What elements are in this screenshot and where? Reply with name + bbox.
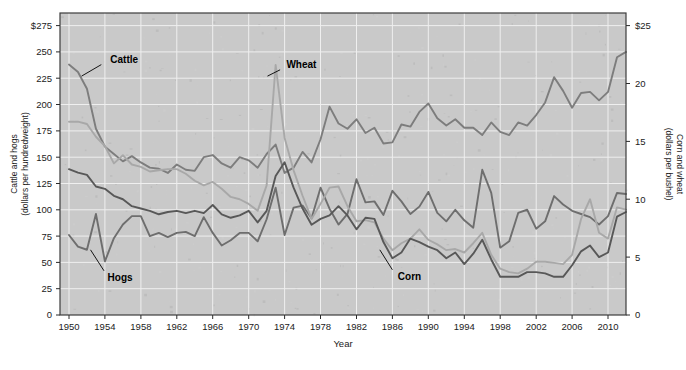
series-label-cattle: Cattle: [110, 54, 138, 65]
series-label-corn: Corn: [398, 271, 421, 282]
svg-text:Cattle and hogs: Cattle and hogs: [9, 134, 19, 194]
right-tick-label: 10: [635, 194, 646, 205]
left-tick-label: 200: [36, 99, 52, 110]
x-axis-title: Year: [333, 338, 352, 349]
left-tick-label: 125: [36, 178, 52, 189]
right-tick-label: 15: [635, 136, 646, 147]
x-tick-label: 1970: [238, 321, 259, 332]
svg-text:Corn and wheat: Corn and wheat: [675, 134, 685, 195]
x-tick-label: 1990: [418, 321, 439, 332]
left-tick-label: 50: [41, 257, 52, 268]
x-tick-label: 1986: [382, 321, 403, 332]
left-tick-label: 250: [36, 46, 52, 57]
x-tick-label: 1994: [454, 321, 475, 332]
left-tick-label: 25: [41, 283, 52, 294]
left-tick-label: 175: [36, 125, 52, 136]
left-tick-label: $275: [31, 20, 52, 31]
svg-text:(dollars per hundredweight): (dollars per hundredweight): [20, 112, 30, 216]
x-tick-label: 1950: [58, 321, 79, 332]
x-tick-label: 2006: [562, 321, 583, 332]
x-tick-label: 1974: [274, 321, 295, 332]
svg-text:(dollars per bushel): (dollars per bushel): [664, 128, 674, 201]
agricultural-prices-chart: 0255075100125150175200225250$27505101520…: [0, 0, 686, 370]
x-tick-label: 2002: [526, 321, 547, 332]
right-axis-title: Corn and wheat(dollars per bushel): [664, 128, 685, 201]
left-tick-label: 75: [41, 231, 52, 242]
x-tick-label: 1962: [166, 321, 187, 332]
x-tick-label: 1966: [202, 321, 223, 332]
x-tick-label: 2010: [597, 321, 618, 332]
right-tick-label: 0: [635, 309, 640, 320]
series-label-hogs: Hogs: [108, 272, 133, 283]
left-tick-label: 150: [36, 152, 52, 163]
x-tick-label: 1978: [310, 321, 331, 332]
series-label-wheat: Wheat: [286, 59, 317, 70]
x-tick-label: 1982: [346, 321, 367, 332]
chart-canvas: 0255075100125150175200225250$27505101520…: [0, 0, 686, 370]
right-tick-label: $25: [635, 20, 651, 31]
left-tick-label: 100: [36, 204, 52, 215]
left-tick-label: 0: [47, 309, 52, 320]
right-tick-label: 5: [635, 252, 640, 263]
x-tick-label: 1954: [94, 321, 115, 332]
x-tick-label: 1998: [490, 321, 511, 332]
left-tick-label: 225: [36, 73, 52, 84]
right-tick-label: 20: [635, 78, 646, 89]
x-tick-label: 1958: [130, 321, 151, 332]
